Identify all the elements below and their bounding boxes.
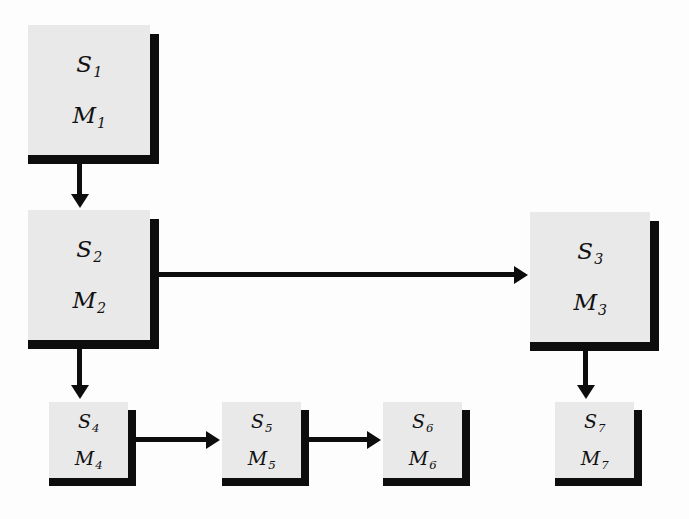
edge-line <box>583 345 588 386</box>
node-shadow-right <box>150 219 159 349</box>
node-shadow-bottom <box>49 478 136 486</box>
node-shadow-right <box>128 410 136 486</box>
node-module-label: M3 <box>573 291 606 314</box>
node-s7[interactable]: S7 M7 <box>555 402 634 478</box>
node-shadow-right <box>634 410 642 486</box>
node-state-label: S2 <box>76 238 101 261</box>
node-module-label: M4 <box>75 449 102 468</box>
node-s5[interactable]: S5 M5 <box>222 402 301 478</box>
node-s3[interactable]: S3 M3 <box>530 212 650 342</box>
node-shadow-bottom <box>222 478 309 486</box>
node-state-label: S7 <box>584 412 605 431</box>
node-shadow-bottom <box>28 155 159 164</box>
node-module-label: M6 <box>409 449 436 468</box>
node-shadow-right <box>301 410 309 486</box>
node-state-label: S3 <box>577 240 602 263</box>
edge-line <box>77 343 82 386</box>
edge-line <box>307 437 369 442</box>
arrowhead-right-icon <box>367 431 381 449</box>
node-state-label: S6 <box>412 412 433 431</box>
node-shadow-right <box>462 410 470 486</box>
arrowhead-right-icon <box>514 266 528 284</box>
node-shadow-bottom <box>383 478 470 486</box>
diagram-canvas: S1 M1 S2 M2 S3 M3 S4 M4 S5 M5 <box>0 0 689 519</box>
node-module-label: M2 <box>72 289 105 312</box>
node-module-label: M1 <box>72 104 105 127</box>
node-state-label: S5 <box>251 412 272 431</box>
node-shadow-bottom <box>530 342 659 351</box>
arrowhead-down-icon <box>71 385 89 399</box>
edge-line <box>156 272 516 277</box>
arrowhead-down-icon <box>577 385 595 399</box>
edge-line <box>134 437 208 442</box>
node-module-label: M7 <box>581 449 608 468</box>
node-s6[interactable]: S6 M6 <box>383 402 462 478</box>
node-module-label: M5 <box>248 449 275 468</box>
node-state-label: S1 <box>76 53 101 76</box>
arrowhead-right-icon <box>206 431 220 449</box>
node-shadow-bottom <box>28 340 159 349</box>
arrowhead-down-icon <box>71 194 89 208</box>
node-s4[interactable]: S4 M4 <box>49 402 128 478</box>
node-shadow-right <box>150 34 159 164</box>
node-shadow-right <box>650 221 659 351</box>
node-state-label: S4 <box>78 412 99 431</box>
node-s1[interactable]: S1 M1 <box>28 25 150 155</box>
node-s2[interactable]: S2 M2 <box>28 210 150 340</box>
node-shadow-bottom <box>555 478 642 486</box>
